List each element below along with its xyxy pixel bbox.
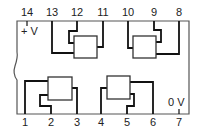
wire-pin-8: [156, 21, 179, 54]
gate-c: [25, 77, 77, 114]
pin-12-label: 12: [71, 6, 83, 18]
pin-10-label: 10: [122, 6, 134, 18]
pin-2-label: 2: [48, 116, 54, 128]
gate-b: [128, 21, 179, 58]
pin-8-label: 8: [176, 6, 182, 18]
pin-6-label: 6: [150, 116, 156, 128]
pin-1-label: 1: [22, 116, 28, 128]
pin-14-label: 14: [21, 6, 33, 18]
gate-d-box: [107, 76, 130, 99]
pin-13-label: 13: [46, 6, 58, 18]
gate-d: [101, 76, 153, 114]
pin-5-label: 5: [124, 116, 130, 128]
ic-pinout-diagram: 14 13 12 11 10 9 8 1 2 3 4 5 6 7 + V 0 V: [0, 0, 200, 133]
wire-pin-11: [97, 21, 103, 47]
wire-pin-13: [52, 21, 74, 53]
pin-11-label: 11: [97, 6, 108, 18]
gate-a-box: [74, 36, 97, 58]
supply-label: + V: [21, 25, 38, 37]
gate-a: [52, 21, 103, 58]
wire-pin-1: [25, 81, 48, 114]
wire-pin-10: [128, 21, 133, 48]
pin-9-label: 9: [151, 6, 157, 18]
gate-c-box: [48, 77, 72, 100]
gate-b-box: [133, 36, 156, 58]
pin-4-label: 4: [98, 116, 104, 128]
ground-label: 0 V: [168, 96, 185, 108]
pin-3-label: 3: [74, 116, 80, 128]
wire-pin-3: [72, 88, 77, 114]
wire-pin-4: [101, 88, 107, 114]
pin-7-label: 7: [176, 116, 182, 128]
